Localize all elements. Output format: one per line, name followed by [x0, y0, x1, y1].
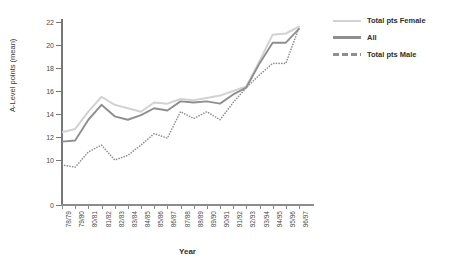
- x-tick-label-87-88: 87/88: [184, 211, 191, 227]
- y-tick-label-text: 14: [32, 111, 54, 118]
- x-tick-91-92: [233, 206, 234, 209]
- x-tick-94-95: [273, 206, 274, 209]
- y-tick-label-14: 14: [32, 111, 54, 118]
- x-tick-83-84: [128, 206, 129, 209]
- y-tick-label-10: 10: [32, 157, 54, 164]
- y-tick-16: [56, 91, 61, 92]
- y-tick-label-text: 10: [32, 157, 54, 164]
- y-tick-label-text: 22: [32, 19, 54, 26]
- legend-label-male: Total pts Male: [367, 50, 416, 59]
- y-tick-label-text: 0: [32, 202, 54, 209]
- x-tick-80-81: [88, 206, 89, 209]
- x-tick-label-91-92: 91/92: [236, 211, 243, 227]
- series-line-total-pts-male: [62, 28, 299, 167]
- x-tick-label-90-91: 90/91: [223, 211, 230, 227]
- y-tick-label-0: 0: [32, 202, 54, 209]
- x-tick-label-94-95: 94/95: [276, 211, 283, 227]
- x-tick-label-81-82: 81/82: [105, 211, 112, 227]
- y-tick-label-16: 16: [32, 88, 54, 95]
- y-tick-label-text: 18: [32, 65, 54, 72]
- x-tick-label-95-96: 95/96: [289, 211, 296, 227]
- y-tick-18: [56, 68, 61, 69]
- x-tick-label-82-83: 82/83: [118, 211, 125, 227]
- x-tick-label-84-85: 84/85: [144, 211, 151, 227]
- series-lines: [62, 20, 313, 205]
- x-tick-82-83: [115, 206, 116, 209]
- x-tick-85-86: [154, 206, 155, 209]
- series-line-total-pts-female: [62, 27, 299, 133]
- x-tick-label-79-80: 79/80: [78, 211, 85, 227]
- legend-swatch-female-icon: [333, 16, 361, 26]
- x-tick-93-94: [260, 206, 261, 209]
- x-tick-95-96: [286, 206, 287, 209]
- x-tick-label-86-87: 86/87: [170, 211, 177, 227]
- x-tick-label-89-90: 89/90: [210, 211, 217, 227]
- x-tick-84-85: [141, 206, 142, 209]
- y-axis-title: A-Level points (mean): [8, 39, 17, 112]
- y-tick-label-text: 16: [32, 88, 54, 95]
- plot-area: [62, 20, 313, 205]
- x-tick-87-88: [181, 206, 182, 209]
- legend-label-female: Total pts Female: [367, 16, 426, 25]
- x-tick-label-92-93: 92/93: [249, 211, 256, 227]
- y-tick-label-18: 18: [32, 65, 54, 72]
- x-tick-90-91: [220, 206, 221, 209]
- series-line-all: [62, 29, 299, 142]
- chart-figure: 010121416182022 78/7979/8080/8181/8282/8…: [0, 0, 456, 265]
- x-tick-label-83-84: 83/84: [131, 211, 138, 227]
- y-tick-label-12: 12: [32, 134, 54, 141]
- chart-legend: Total pts Female All Total pts Male: [333, 14, 453, 65]
- y-tick-12: [56, 137, 61, 138]
- y-tick-0: [56, 205, 61, 206]
- x-tick-79-80: [75, 206, 76, 209]
- x-tick-88-89: [194, 206, 195, 209]
- x-tick-86-87: [167, 206, 168, 209]
- y-tick-label-20: 20: [32, 42, 54, 49]
- x-tick-89-90: [207, 206, 208, 209]
- legend-item-total-pts-male: Total pts Male: [333, 48, 453, 61]
- y-tick-14: [56, 114, 61, 115]
- x-tick-label-88-89: 88/89: [197, 211, 204, 227]
- x-tick-label-80-81: 80/81: [91, 211, 98, 227]
- y-tick-label-text: 12: [32, 134, 54, 141]
- legend-item-total-pts-female: Total pts Female: [333, 14, 453, 27]
- x-tick-label-78-79: 78/79: [65, 211, 72, 227]
- x-tick-96-97: [299, 206, 300, 209]
- legend-swatch-male-icon: [333, 50, 361, 60]
- y-tick-20: [56, 45, 61, 46]
- x-tick-81-82: [102, 206, 103, 209]
- x-tick-label-93-94: 93/94: [263, 211, 270, 227]
- y-tick-label-22: 22: [32, 19, 54, 26]
- legend-label-all: All: [367, 33, 377, 42]
- legend-item-all: All: [333, 31, 453, 44]
- x-tick-78-79: [62, 206, 63, 209]
- y-tick-22: [56, 22, 61, 23]
- x-axis-title: Year: [62, 247, 313, 256]
- x-tick-label-85-86: 85/86: [157, 211, 164, 227]
- legend-swatch-all-icon: [333, 33, 361, 43]
- x-tick-92-93: [246, 206, 247, 209]
- x-tick-label-96-97: 96/97: [302, 211, 309, 227]
- y-tick-10: [56, 160, 61, 161]
- y-tick-label-text: 20: [32, 42, 54, 49]
